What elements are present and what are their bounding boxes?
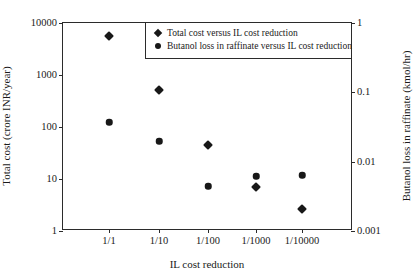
data-point-total-cost-1 — [154, 85, 164, 95]
y-tick-left-10000 — [59, 23, 63, 24]
y-tick-right-0.001 — [351, 231, 355, 232]
y-tick-label-right-3: 0.001 — [357, 226, 381, 237]
x-tick-label-0: 1/1 — [102, 236, 115, 247]
y-tick-label-right-0: 1 — [357, 18, 362, 29]
legend-item-butanol-loss: Butanol loss in raffinate versus IL cost… — [152, 40, 345, 53]
data-point-butanol-loss-4 — [299, 172, 306, 179]
x-tick-label-3: 1/1000 — [241, 236, 270, 247]
y-axis-right-title: Butanol loss in raffinate (kmol/hr) — [400, 51, 412, 202]
y-tick-left-10 — [59, 179, 63, 180]
y-axis-left-title: Total cost (crore INR/year) — [0, 66, 12, 185]
x-tick-1 — [159, 229, 160, 233]
data-point-total-cost-3 — [251, 182, 261, 192]
data-point-total-cost-0 — [104, 31, 114, 41]
legend-label-butanol-loss: Butanol loss in raffinate versus IL cost… — [167, 40, 352, 53]
data-point-total-cost-4 — [297, 204, 307, 214]
x-tick-label-1: 1/10 — [150, 236, 169, 247]
x-tick-4 — [302, 229, 303, 233]
data-point-total-cost-2 — [203, 140, 213, 150]
chart-figure: Total cost (crore INR/year) Butanol loss… — [0, 0, 418, 279]
chart-legend: Total cost versus IL cost reduction Buta… — [145, 22, 352, 59]
y-tick-left-1 — [59, 231, 63, 232]
y-tick-label-left-4: 1 — [52, 226, 57, 237]
y-tick-left-1000 — [59, 75, 63, 76]
y-tick-right-0.01 — [351, 162, 355, 163]
x-tick-label-2: 1/100 — [196, 236, 220, 247]
y-tick-label-right-1: 0.1 — [357, 87, 370, 98]
data-point-butanol-loss-1 — [156, 138, 163, 145]
y-tick-label-right-2: 0.01 — [357, 156, 375, 167]
circle-marker-icon — [152, 43, 164, 49]
x-axis-title: IL cost reduction — [170, 258, 245, 270]
y-tick-label-left-1: 1000 — [36, 70, 57, 81]
y-tick-label-left-0: 10000 — [31, 18, 57, 29]
x-tick-2 — [208, 229, 209, 233]
y-tick-right-0.1 — [351, 92, 355, 93]
legend-item-total-cost: Total cost versus IL cost reduction — [152, 27, 345, 40]
y-tick-label-left-2: 100 — [41, 122, 57, 133]
y-tick-left-100 — [59, 127, 63, 128]
y-tick-label-left-3: 10 — [47, 174, 58, 185]
x-tick-3 — [256, 229, 257, 233]
data-point-butanol-loss-2 — [205, 183, 212, 190]
data-point-butanol-loss-0 — [106, 119, 113, 126]
x-tick-label-4: 1/10000 — [285, 236, 319, 247]
diamond-marker-icon — [152, 30, 164, 36]
legend-label-total-cost: Total cost versus IL cost reduction — [167, 27, 298, 40]
data-point-butanol-loss-3 — [253, 173, 260, 180]
x-tick-0 — [109, 229, 110, 233]
